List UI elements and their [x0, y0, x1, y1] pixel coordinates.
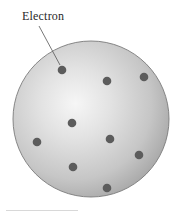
electron-dot: [135, 151, 144, 160]
electron-dot: [68, 119, 77, 128]
electron-dot: [33, 138, 42, 147]
electron-dot: [58, 66, 67, 75]
atom-diagram: Electron: [0, 0, 180, 214]
caption-rule: [6, 210, 78, 211]
electron-dot: [140, 73, 149, 82]
electron-dot: [69, 163, 78, 172]
electron-dot: [103, 184, 112, 193]
atom-diagram-graphic: [0, 0, 180, 214]
electron-label: Electron: [22, 9, 64, 24]
positive-sphere: [13, 41, 169, 197]
electron-dot: [103, 77, 112, 86]
electron-dot: [106, 135, 115, 144]
